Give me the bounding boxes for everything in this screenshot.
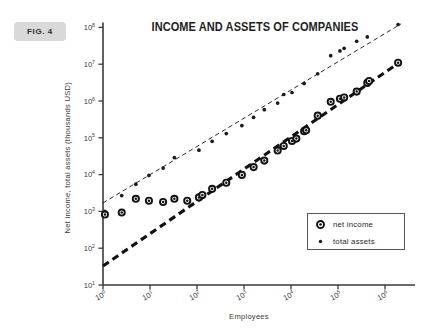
net-income-point bbox=[328, 99, 334, 105]
x-tick-label: 106 bbox=[375, 288, 390, 302]
y-tick-label: 106 bbox=[84, 96, 95, 106]
total-assets-point bbox=[282, 93, 286, 97]
net-income-point bbox=[293, 136, 299, 142]
legend-label-total-assets: total assets bbox=[333, 237, 375, 246]
total-assets-point bbox=[197, 148, 201, 152]
total-assets-point bbox=[355, 39, 359, 43]
net-income-point bbox=[341, 94, 347, 100]
net-income-point bbox=[275, 147, 281, 153]
net-income-point bbox=[366, 78, 372, 84]
net-income-point bbox=[281, 143, 287, 149]
total-assets-point bbox=[338, 49, 342, 53]
total-assets-point bbox=[365, 35, 369, 39]
net-income-point bbox=[261, 158, 267, 164]
total-assets-marker-icon bbox=[315, 236, 326, 247]
y-axis-title: Net income, total assets (thousands USD) bbox=[63, 82, 72, 234]
total-assets-point bbox=[173, 156, 177, 160]
net-income-marker-icon bbox=[315, 219, 326, 230]
x-tick-label: 103 bbox=[234, 288, 249, 302]
total-assets-point bbox=[396, 23, 400, 27]
total-assets-point bbox=[252, 115, 256, 119]
total-assets-point bbox=[329, 54, 333, 58]
y-tick-label: 101 bbox=[84, 280, 95, 290]
net-income-point bbox=[395, 60, 401, 66]
net-income-point bbox=[303, 127, 309, 133]
total-assets-point bbox=[161, 166, 165, 170]
net-income-point bbox=[354, 89, 360, 95]
net-income-point bbox=[223, 180, 229, 186]
y-tick-label: 108 bbox=[84, 22, 95, 32]
x-tick-label: 102 bbox=[187, 288, 202, 302]
total-assets-point bbox=[134, 182, 138, 186]
net-income-point bbox=[102, 211, 108, 217]
total-assets-point bbox=[302, 82, 306, 86]
x-tick-label: 101 bbox=[140, 288, 155, 302]
x-axis-title: Employees bbox=[229, 312, 269, 321]
x-tick-label: 105 bbox=[328, 288, 343, 302]
y-tick-label: 104 bbox=[84, 169, 95, 179]
y-tick-label: 102 bbox=[84, 243, 95, 253]
total-assets-point bbox=[316, 72, 320, 76]
net-income-points-group bbox=[102, 60, 401, 218]
total-assets-point bbox=[240, 124, 244, 128]
net-income-point bbox=[171, 196, 177, 202]
net-income-point bbox=[133, 196, 139, 202]
total-assets-point bbox=[120, 194, 124, 198]
total-assets-point bbox=[262, 108, 266, 112]
net-income-point bbox=[119, 209, 125, 215]
net-income-point bbox=[315, 113, 321, 119]
net-income-point bbox=[160, 199, 166, 205]
net-income-point bbox=[146, 198, 152, 204]
legend[interactable]: net income total assets bbox=[307, 213, 405, 250]
net-income-point bbox=[199, 192, 205, 198]
total-assets-point bbox=[342, 46, 346, 50]
scatter-plot-canvas: 1081071061051041031021011001011021031041… bbox=[0, 0, 438, 328]
total-assets-point bbox=[276, 101, 280, 105]
total-assets-point bbox=[147, 174, 151, 178]
x-tick-label: 104 bbox=[281, 288, 296, 302]
total-assets-point bbox=[210, 140, 214, 144]
figure-root: FIG. 4 INCOME AND ASSETS OF COMPANIES 10… bbox=[0, 0, 438, 328]
total-assets-point bbox=[290, 91, 294, 95]
legend-item-total-assets[interactable]: total assets bbox=[315, 233, 404, 250]
net-income-point bbox=[250, 164, 256, 170]
x-tick-label: 100 bbox=[93, 288, 108, 302]
axes-group: 1081071061051041031021011001011021031041… bbox=[84, 22, 415, 302]
legend-item-net-income[interactable]: net income bbox=[315, 216, 404, 233]
y-tick-label: 103 bbox=[84, 206, 95, 216]
net-income-point bbox=[239, 172, 245, 178]
y-tick-label: 107 bbox=[84, 59, 95, 69]
net-income-point bbox=[209, 186, 215, 192]
total-assets-point bbox=[224, 132, 228, 136]
y-tick-label: 105 bbox=[84, 132, 95, 142]
legend-label-net-income: net income bbox=[333, 220, 373, 229]
net-income-point bbox=[184, 198, 190, 204]
